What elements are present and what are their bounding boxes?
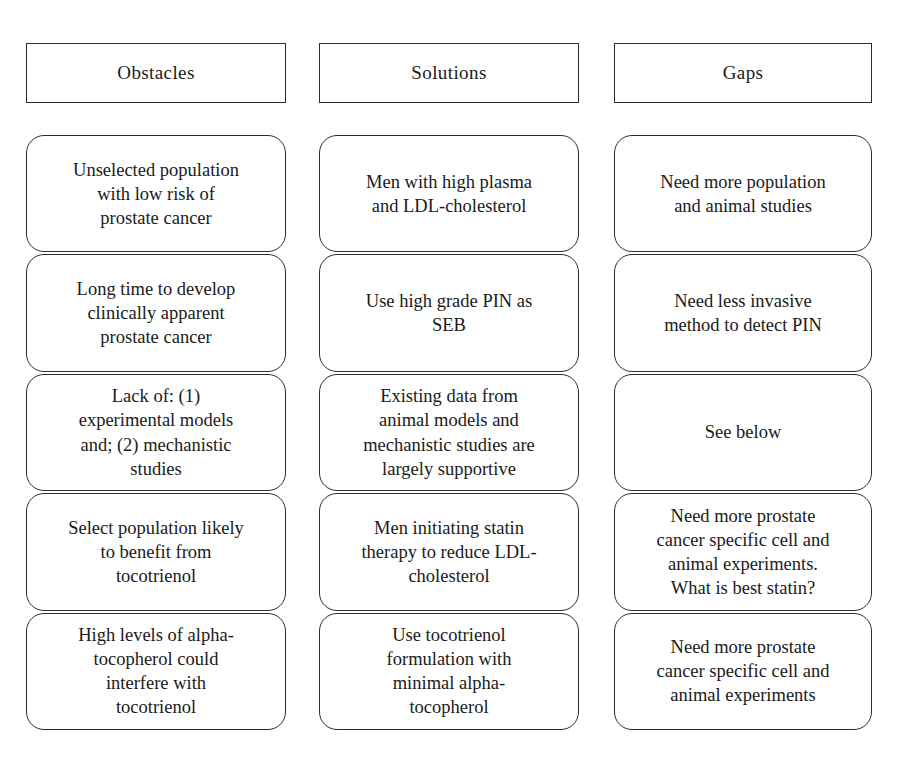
cell-text: Need more population and animal studies xyxy=(660,170,825,218)
cell-text: Men initiating statin therapy to reduce … xyxy=(361,516,536,588)
cell-solutions-5: Use tocotrienol formulation with minimal… xyxy=(319,613,579,730)
columns-container: Obstacles Unselected population with low… xyxy=(0,0,902,765)
cell-text: Lack of: (1) experimental models and; (2… xyxy=(79,384,234,480)
column-solutions: Solutions Men with high plasma and LDL-c… xyxy=(319,43,579,730)
column-header-label: Gaps xyxy=(723,63,764,84)
column-header-label: Solutions xyxy=(411,63,486,84)
cells-gaps: Need more population and animal studies … xyxy=(614,135,872,730)
cells-obstacles: Unselected population with low risk of p… xyxy=(26,135,286,730)
cell-text: Unselected population with low risk of p… xyxy=(73,158,239,230)
cell-text: Use high grade PIN as SEB xyxy=(366,289,532,337)
cell-text: High levels of alpha- tocopherol could i… xyxy=(78,623,234,719)
cell-text: See below xyxy=(705,420,782,444)
cell-solutions-4: Men initiating statin therapy to reduce … xyxy=(319,493,579,610)
cell-solutions-3: Existing data from animal models and mec… xyxy=(319,374,579,491)
cell-text: Existing data from animal models and mec… xyxy=(363,384,535,480)
cell-text: Need less invasive method to detect PIN xyxy=(664,289,822,337)
cell-text: Long time to develop clinically apparent… xyxy=(77,277,236,349)
cell-obstacles-3: Lack of: (1) experimental models and; (2… xyxy=(26,374,286,491)
cell-gaps-5: Need more prostate cancer specific cell … xyxy=(614,613,872,730)
cell-obstacles-5: High levels of alpha- tocopherol could i… xyxy=(26,613,286,730)
cell-gaps-1: Need more population and animal studies xyxy=(614,135,872,252)
cell-obstacles-1: Unselected population with low risk of p… xyxy=(26,135,286,252)
column-gaps: Gaps Need more population and animal stu… xyxy=(614,43,872,730)
cell-text: Use tocotrienol formulation with minimal… xyxy=(387,623,512,719)
cells-solutions: Men with high plasma and LDL-cholesterol… xyxy=(319,135,579,730)
cell-text: Select population likely to benefit from… xyxy=(68,516,244,588)
cell-obstacles-4: Select population likely to benefit from… xyxy=(26,493,286,610)
column-header-solutions: Solutions xyxy=(319,43,579,103)
cell-solutions-1: Men with high plasma and LDL-cholesterol xyxy=(319,135,579,252)
column-obstacles: Obstacles Unselected population with low… xyxy=(26,43,286,730)
cell-text: Men with high plasma and LDL-cholesterol xyxy=(366,170,532,218)
column-header-obstacles: Obstacles xyxy=(26,43,286,103)
column-header-label: Obstacles xyxy=(117,63,194,84)
cell-gaps-3: See below xyxy=(614,374,872,491)
cell-gaps-2: Need less invasive method to detect PIN xyxy=(614,254,872,371)
diagram-canvas: Obstacles Unselected population with low… xyxy=(0,0,902,765)
column-header-gaps: Gaps xyxy=(614,43,872,103)
cell-solutions-2: Use high grade PIN as SEB xyxy=(319,254,579,371)
cell-gaps-4: Need more prostate cancer specific cell … xyxy=(614,493,872,610)
cell-obstacles-2: Long time to develop clinically apparent… xyxy=(26,254,286,371)
cell-text: Need more prostate cancer specific cell … xyxy=(656,635,829,707)
cell-text: Need more prostate cancer specific cell … xyxy=(656,504,829,600)
